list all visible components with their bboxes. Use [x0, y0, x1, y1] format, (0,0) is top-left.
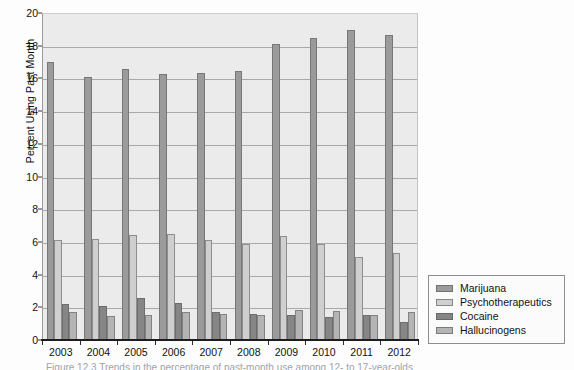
x-axis-tickmark — [230, 341, 231, 345]
bar — [212, 312, 220, 340]
bar — [385, 35, 393, 340]
y-axis-tick-label: 2 — [14, 301, 38, 313]
bar — [92, 239, 100, 340]
bar — [370, 315, 378, 340]
y-axis-tick-label: 20 — [14, 7, 38, 19]
legend-item[interactable]: Marijuana — [436, 281, 558, 295]
bar-group — [43, 14, 81, 340]
bar — [205, 240, 213, 340]
plot-area — [42, 13, 418, 340]
bar — [167, 234, 175, 340]
bar — [145, 315, 153, 340]
legend-item[interactable]: Cocaine — [436, 309, 558, 323]
x-axis-tick-label: 2004 — [87, 346, 110, 358]
x-axis-tickmark — [117, 341, 118, 345]
y-axis-tickmark — [38, 111, 42, 112]
x-axis-tickmark — [418, 341, 419, 345]
legend-swatch — [436, 285, 453, 292]
bar — [159, 74, 167, 340]
y-axis-tick-label: 0 — [14, 334, 38, 346]
x-axis-tick-label: 2012 — [388, 346, 411, 358]
y-axis-tickmark — [38, 209, 42, 210]
legend-item-label: Hallucinogens — [460, 324, 526, 336]
bar — [122, 69, 130, 340]
bar — [137, 298, 145, 341]
bar — [129, 235, 137, 340]
x-axis-tick-label: 2007 — [200, 346, 223, 358]
bar-group — [81, 14, 119, 340]
y-axis-tickmark — [38, 176, 42, 177]
bar — [257, 315, 265, 340]
x-axis-tick-label: 2010 — [312, 346, 335, 358]
legend-swatch — [436, 313, 453, 320]
x-axis-tick-label: 2003 — [49, 346, 72, 358]
x-axis-tickmark — [42, 341, 43, 345]
bar — [347, 30, 355, 340]
x-axis-tick-label: 2011 — [350, 346, 373, 358]
bar — [333, 311, 341, 340]
x-axis-tickmark — [343, 341, 344, 345]
bar — [317, 244, 325, 340]
bar — [84, 77, 92, 340]
bar — [355, 257, 363, 340]
x-axis-tickmark — [155, 341, 156, 345]
bar — [310, 38, 318, 340]
bar-group — [381, 14, 419, 340]
x-axis-tick-label: 2008 — [237, 346, 260, 358]
bar — [325, 317, 333, 340]
bar — [107, 316, 115, 340]
bar — [400, 322, 408, 340]
bar — [272, 44, 280, 340]
bar — [295, 310, 303, 340]
bar — [197, 73, 205, 340]
y-axis-tick-label: 16 — [14, 72, 38, 84]
x-axis-tick-label: 2005 — [124, 346, 147, 358]
y-axis-tick-label: 10 — [14, 171, 38, 183]
y-axis-tick-label: 14 — [14, 105, 38, 117]
legend-item-label: Cocaine — [460, 310, 499, 322]
legend-swatch — [436, 299, 453, 306]
legend-swatch — [436, 327, 453, 334]
bar-group — [156, 14, 194, 340]
plot-inner — [43, 14, 417, 340]
bar — [287, 315, 295, 340]
y-axis-tickmark — [38, 274, 42, 275]
bar-group — [118, 14, 156, 340]
y-axis-tickmark — [38, 307, 42, 308]
bar — [363, 315, 371, 340]
x-axis-tickmark — [80, 341, 81, 345]
legend-item[interactable]: Psychotherapeutics — [436, 295, 558, 309]
legend-item[interactable]: Hallucinogens — [436, 323, 558, 337]
legend-item-label: Marijuana — [460, 282, 506, 294]
y-axis-tickmark — [38, 143, 42, 144]
chart-legend: MarijuanaPsychotherapeuticsCocaineHalluc… — [428, 275, 565, 344]
figure-container: Percent Using Past Month 024681012141618… — [0, 0, 574, 370]
y-axis-tick-label: 6 — [14, 236, 38, 248]
legend-item-label: Psychotherapeutics — [460, 296, 552, 308]
y-axis-tickmark — [38, 13, 42, 14]
bar — [393, 253, 401, 340]
x-axis-tick-label: 2009 — [275, 346, 298, 358]
y-axis-tick-labels: 02468101214161820 — [14, 0, 38, 370]
bar-group — [193, 14, 231, 340]
bar — [220, 314, 228, 340]
bar — [62, 304, 70, 340]
bar — [235, 71, 243, 340]
y-axis-tickmark — [38, 45, 42, 46]
x-axis-tickmark — [380, 341, 381, 345]
y-axis-tickmark — [38, 78, 42, 79]
bar — [69, 312, 77, 340]
y-axis-tick-label: 12 — [14, 138, 38, 150]
x-axis-tickmark — [268, 341, 269, 345]
bar — [250, 314, 258, 340]
x-axis-tick-label: 2006 — [162, 346, 185, 358]
bar-group — [344, 14, 382, 340]
x-axis-tickmark — [305, 341, 306, 345]
bar — [99, 306, 107, 340]
bar-group — [269, 14, 307, 340]
x-axis-tickmark — [192, 341, 193, 345]
bar-group — [306, 14, 344, 340]
y-axis-tickmark — [38, 241, 42, 242]
bar — [175, 303, 183, 340]
bar — [47, 62, 55, 340]
